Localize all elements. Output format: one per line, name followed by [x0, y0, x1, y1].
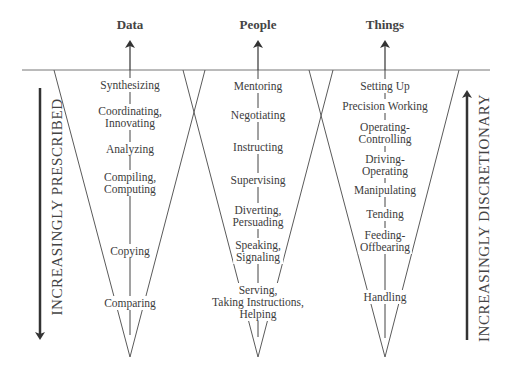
function-label: Speaking,Signaling	[233, 238, 283, 264]
function-label: Mentoring	[232, 79, 285, 93]
function-label: Driving-Operating	[360, 152, 410, 178]
function-label: Synthesizing	[98, 78, 161, 92]
function-label: Feeding-Offbearing	[358, 228, 412, 254]
function-label: Diverting,Persuading	[230, 203, 285, 229]
function-label: Precision Working	[340, 99, 429, 113]
function-label: Comparing	[102, 296, 158, 310]
function-label: Instructing	[231, 140, 285, 154]
function-label: Coordinating,Innovating	[96, 104, 164, 130]
column-title-people: People	[240, 17, 277, 33]
function-label: Analyzing	[104, 142, 156, 156]
function-label: Negotiating	[229, 108, 287, 122]
function-label: Manipulating	[352, 183, 418, 197]
function-label: Copying	[108, 244, 152, 258]
function-label: Supervising	[229, 173, 288, 187]
discretionary-axis-label: INCREASINGLY DISCRETIONARY	[476, 94, 493, 342]
column-title-data: Data	[117, 17, 144, 33]
function-label: Serving,Taking Instructions,Helping	[210, 283, 306, 321]
function-label: Tending	[364, 207, 406, 221]
function-label: Operating-Controlling	[356, 120, 413, 146]
function-label: Compiling,Computing	[102, 170, 158, 196]
prescribed-axis-label: INCREASINGLY PRESCRIBED	[49, 98, 66, 315]
column-title-things: Things	[366, 17, 404, 33]
function-label: Handling	[362, 290, 409, 304]
function-label: Setting Up	[358, 79, 412, 93]
